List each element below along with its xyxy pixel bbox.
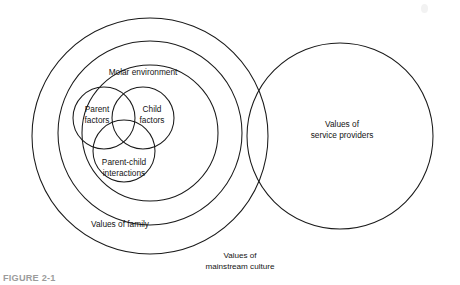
scan-artifact-speck bbox=[421, 4, 428, 13]
label-parent-child-line1: Parent-child bbox=[102, 157, 147, 167]
label-parent-factors-line2: factors bbox=[85, 115, 110, 125]
label-values-service-line1: Values of bbox=[325, 119, 360, 129]
label-parent-child-line2: interactions bbox=[103, 168, 145, 178]
figure-caption: FIGURE 2-1 bbox=[0, 272, 460, 285]
figure-container: Molar environment Parent factors Child f… bbox=[0, 0, 460, 285]
label-child-factors-line2: factors bbox=[140, 115, 165, 125]
label-values-mainstream-line1: Values of bbox=[223, 251, 257, 260]
label-values-service-line2: service providers bbox=[311, 130, 374, 140]
label-child-factors-line1: Child bbox=[143, 104, 162, 114]
circle-molar-environment bbox=[82, 65, 218, 201]
circle-values-of-mainstream-culture bbox=[32, 18, 268, 254]
label-parent-factors-line1: Parent bbox=[85, 104, 110, 114]
venn-diagram-svg: Molar environment Parent factors Child f… bbox=[0, 0, 460, 285]
label-molar-environment: Molar environment bbox=[109, 67, 178, 77]
label-values-mainstream-line2: mainstream culture bbox=[206, 262, 275, 271]
label-values-of-family: Values of family bbox=[91, 219, 150, 229]
figure-caption-text: FIGURE 2-1 bbox=[3, 273, 56, 283]
